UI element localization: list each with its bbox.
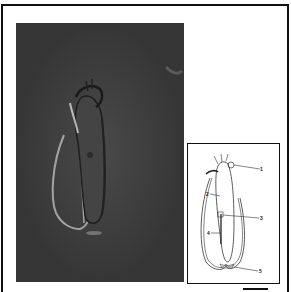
inset-label-3: 3 [260, 216, 263, 221]
line-drawing-inset: 1 2 3 4 5 [187, 143, 280, 284]
micrograph-photo [16, 23, 184, 282]
inset-label-4: 4 [207, 231, 210, 236]
inset-label-1: 1 [260, 167, 263, 172]
inset-label-5: 5 [259, 269, 262, 274]
scale-bar [243, 288, 268, 290]
inset-label-2: 2 [206, 192, 209, 197]
figure-frame-right [287, 4, 289, 292]
figure-frame-left [1, 4, 3, 292]
figure-frame-top [1, 4, 289, 6]
